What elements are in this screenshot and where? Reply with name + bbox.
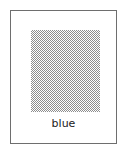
color-label: blue [11, 117, 116, 131]
color-card[interactable]: blue [10, 10, 117, 144]
color-swatch [31, 30, 100, 112]
